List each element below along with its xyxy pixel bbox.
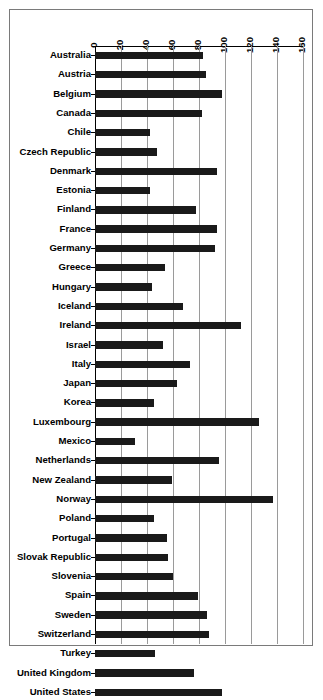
category-label: Australia bbox=[50, 49, 91, 61]
category-label: Canada bbox=[56, 107, 91, 119]
bar-row[interactable]: Luxembourg bbox=[0, 413, 323, 432]
category-label: Germany bbox=[49, 242, 91, 254]
category-label: Japan bbox=[63, 377, 91, 389]
bar[interactable] bbox=[95, 303, 183, 310]
category-label: Slovak Republic bbox=[17, 551, 91, 563]
bar[interactable] bbox=[95, 611, 207, 618]
category-label: Norway bbox=[56, 493, 91, 505]
category-label: Czech Republic bbox=[20, 146, 91, 158]
category-label: Portugal bbox=[52, 532, 91, 544]
bar-row[interactable]: New Zealand bbox=[0, 471, 323, 490]
bar[interactable] bbox=[95, 264, 165, 271]
bar[interactable] bbox=[95, 496, 273, 503]
category-label: Finland bbox=[57, 203, 91, 215]
category-label: Hungary bbox=[52, 281, 91, 293]
bar[interactable] bbox=[95, 90, 222, 97]
bar-row[interactable]: Finland bbox=[0, 200, 323, 219]
bar-row[interactable]: Austria bbox=[0, 65, 323, 84]
bar[interactable] bbox=[95, 245, 215, 252]
bar-row[interactable]: Estonia bbox=[0, 181, 323, 200]
bar[interactable] bbox=[95, 206, 196, 213]
category-label: Luxembourg bbox=[33, 416, 91, 428]
bar[interactable] bbox=[95, 399, 154, 406]
bar-row[interactable]: Portugal bbox=[0, 529, 323, 548]
category-label: Iceland bbox=[58, 300, 91, 312]
bar[interactable] bbox=[95, 110, 202, 117]
bar[interactable] bbox=[95, 148, 157, 155]
bar[interactable] bbox=[95, 187, 150, 194]
bar-row[interactable]: Switzerland bbox=[0, 625, 323, 644]
bar[interactable] bbox=[95, 457, 219, 464]
bar[interactable] bbox=[95, 380, 177, 387]
bar[interactable] bbox=[95, 52, 203, 59]
category-label: Austria bbox=[58, 68, 91, 80]
bar-row[interactable]: Iceland bbox=[0, 297, 323, 316]
category-label: Spain bbox=[65, 589, 91, 601]
bar[interactable] bbox=[95, 573, 173, 580]
category-label: Chile bbox=[68, 126, 91, 138]
bar-row[interactable]: Italy bbox=[0, 355, 323, 374]
bar-row[interactable]: Chile bbox=[0, 123, 323, 142]
bar-row[interactable]: Ireland bbox=[0, 316, 323, 335]
bar[interactable] bbox=[95, 361, 190, 368]
bar-row[interactable]: Slovenia bbox=[0, 567, 323, 586]
bar[interactable] bbox=[95, 669, 194, 676]
bar[interactable] bbox=[95, 631, 209, 638]
category-label: Greece bbox=[58, 261, 91, 273]
bar-row[interactable]: Norway bbox=[0, 490, 323, 509]
category-label: Slovenia bbox=[52, 570, 91, 582]
bar-row[interactable]: Belgium bbox=[0, 85, 323, 104]
bar[interactable] bbox=[95, 438, 135, 445]
bar-row[interactable]: Korea bbox=[0, 393, 323, 412]
bar[interactable] bbox=[95, 129, 150, 136]
category-label: Estonia bbox=[56, 184, 91, 196]
bar-row[interactable]: Hungary bbox=[0, 278, 323, 297]
bar[interactable] bbox=[95, 168, 217, 175]
bar-row[interactable]: Canada bbox=[0, 104, 323, 123]
bar-row[interactable]: Poland bbox=[0, 509, 323, 528]
bar[interactable] bbox=[95, 341, 163, 348]
category-label: United States bbox=[30, 686, 91, 698]
bar-row[interactable]: Turkey bbox=[0, 644, 323, 663]
bar-row[interactable]: Greece bbox=[0, 258, 323, 277]
bar[interactable] bbox=[95, 534, 167, 541]
category-label: Turkey bbox=[60, 647, 91, 659]
bar-row[interactable]: Australia bbox=[0, 46, 323, 65]
bar[interactable] bbox=[95, 283, 152, 290]
bar-row[interactable]: Denmark bbox=[0, 162, 323, 181]
category-label: France bbox=[60, 223, 91, 235]
bar-row[interactable]: United States bbox=[0, 683, 323, 700]
bar-row[interactable]: Mexico bbox=[0, 432, 323, 451]
bar-row[interactable]: Israel bbox=[0, 336, 323, 355]
bar-row[interactable]: Spain bbox=[0, 586, 323, 605]
bar-row[interactable]: France bbox=[0, 220, 323, 239]
bar[interactable] bbox=[95, 476, 172, 483]
bar-row[interactable]: Slovak Republic bbox=[0, 548, 323, 567]
category-label: New Zealand bbox=[32, 474, 91, 486]
bar[interactable] bbox=[95, 418, 259, 425]
category-label: Poland bbox=[59, 512, 91, 524]
bar[interactable] bbox=[95, 592, 198, 599]
bar[interactable] bbox=[95, 689, 222, 696]
category-label: Mexico bbox=[58, 435, 91, 447]
category-label: United Kingdom bbox=[17, 667, 91, 679]
bar[interactable] bbox=[95, 554, 168, 561]
bar[interactable] bbox=[95, 515, 154, 522]
bar[interactable] bbox=[95, 225, 217, 232]
bar-row[interactable]: United Kingdom bbox=[0, 664, 323, 683]
category-label: Switzerland bbox=[38, 628, 91, 640]
category-label: Italy bbox=[72, 358, 91, 370]
bar-row[interactable]: Netherlands bbox=[0, 451, 323, 470]
category-label: Belgium bbox=[53, 88, 91, 100]
bar[interactable] bbox=[95, 322, 241, 329]
category-label: Israel bbox=[66, 339, 91, 351]
bar-row[interactable]: Czech Republic bbox=[0, 143, 323, 162]
bar-row[interactable]: Germany bbox=[0, 239, 323, 258]
bar-row[interactable]: Japan bbox=[0, 374, 323, 393]
category-label: Denmark bbox=[50, 165, 91, 177]
bar-row[interactable]: Sweden bbox=[0, 606, 323, 625]
bar[interactable] bbox=[95, 71, 206, 78]
bar[interactable] bbox=[95, 650, 155, 657]
